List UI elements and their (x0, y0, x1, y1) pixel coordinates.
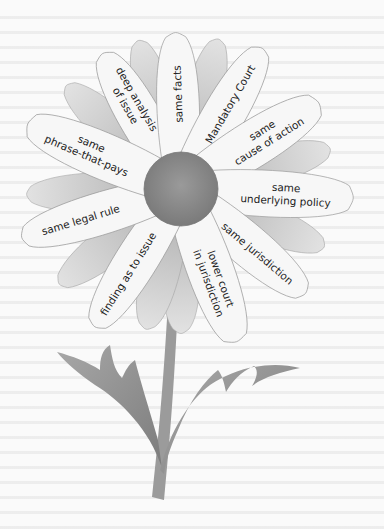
label-same-facts: same facts (171, 65, 185, 123)
leaf-right (160, 365, 300, 474)
flower-diagram: deep analysis of issue same facts Mandat… (0, 0, 384, 529)
flower-center (144, 152, 218, 226)
leaf-left (57, 345, 162, 468)
label-same-underlying-policy-line1: same (272, 181, 301, 194)
